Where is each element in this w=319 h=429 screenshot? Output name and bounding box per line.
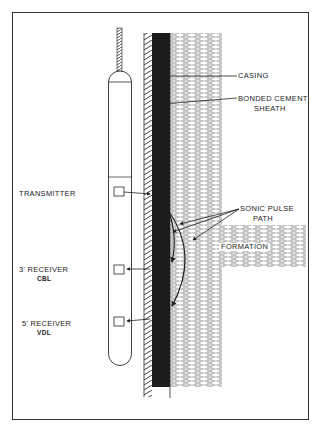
label-formation: FORMATION (219, 243, 270, 251)
label-vdl: VDL (37, 330, 51, 337)
formation (170, 33, 306, 398)
label-sonic-pulse: SONIC PULSE (240, 205, 294, 213)
wireline-cable (117, 28, 122, 71)
label-3ft-receiver: 3' RECEIVER (19, 266, 68, 274)
label-transmitter: TRANSMITTER (19, 190, 76, 198)
casing (144, 33, 152, 397)
label-bonded-cement: BONDED CEMENT (238, 95, 308, 103)
label-cbl: CBL (37, 276, 51, 283)
label-path: PATH (253, 215, 273, 223)
cement-sheath (152, 33, 170, 387)
label-5ft-receiver: 5' RECEIVER (22, 320, 71, 328)
label-casing: CASING (238, 72, 269, 80)
label-sheath: SHEATH (254, 105, 286, 113)
